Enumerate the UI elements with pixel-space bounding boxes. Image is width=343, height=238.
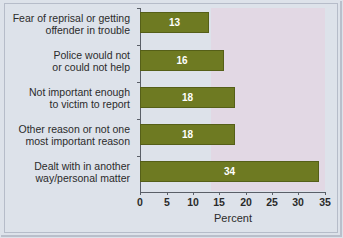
bar-value-0: 13 — [140, 12, 209, 33]
x-axis-tick — [167, 192, 168, 195]
bar-value-1: 16 — [140, 50, 224, 71]
y-axis-tick — [137, 156, 140, 157]
chart-figure: 13 16 18 18 34 Fear of reprisal or getti… — [0, 0, 343, 238]
x-axis-tick — [272, 192, 273, 195]
category-label-0-line-0: Fear of reprisal or getting — [10, 13, 130, 25]
category-label-2-line-1: to victim to report — [10, 99, 130, 111]
category-label-4: Dealt with in another way/personal matte… — [10, 161, 133, 184]
bar-value-4: 34 — [140, 161, 319, 182]
y-axis-tick — [137, 119, 140, 120]
category-label-3-line-0: Other reason or not one — [10, 124, 130, 136]
x-tick-label-3: 15 — [208, 196, 230, 208]
x-axis-tick — [140, 192, 141, 195]
bar-value-3: 18 — [140, 124, 235, 145]
category-label-4-line-1: way/personal matter — [10, 173, 130, 185]
category-label-0-line-1: offender in trouble — [10, 25, 130, 37]
bar-value-2: 18 — [140, 87, 235, 108]
x-tick-label-6: 30 — [287, 196, 309, 208]
x-axis-tick — [325, 192, 326, 195]
x-tick-label-4: 20 — [235, 196, 257, 208]
x-axis-tick — [193, 192, 194, 195]
x-tick-label-5: 25 — [261, 196, 283, 208]
y-axis-tick — [137, 82, 140, 83]
x-tick-label-1: 5 — [156, 196, 178, 208]
x-tick-label-7: 35 — [314, 196, 336, 208]
category-label-2-line-0: Not important enough — [10, 87, 130, 99]
category-label-4-line-0: Dealt with in another — [10, 161, 130, 173]
x-axis-tick — [219, 192, 220, 195]
y-axis-tick — [137, 45, 140, 46]
x-tick-label-2: 10 — [182, 196, 204, 208]
category-label-3-line-1: most important reason — [10, 136, 130, 148]
category-label-1-line-1: or could not help — [10, 62, 130, 74]
category-label-2: Not important enough to victim to report — [10, 87, 133, 110]
category-label-3: Other reason or not one most important r… — [10, 124, 133, 147]
category-label-0: Fear of reprisal or getting offender in … — [10, 13, 133, 36]
category-label-1: Police would not or could not help — [10, 50, 133, 73]
x-axis-title: Percent — [140, 212, 326, 224]
category-label-1-line-0: Police would not — [10, 50, 130, 62]
y-axis-tick — [137, 8, 140, 9]
x-tick-label-0: 0 — [129, 196, 151, 208]
x-axis-tick — [298, 192, 299, 195]
plot-area: 13 16 18 18 34 Fear of reprisal or getti… — [0, 0, 343, 238]
x-axis-tick — [246, 192, 247, 195]
